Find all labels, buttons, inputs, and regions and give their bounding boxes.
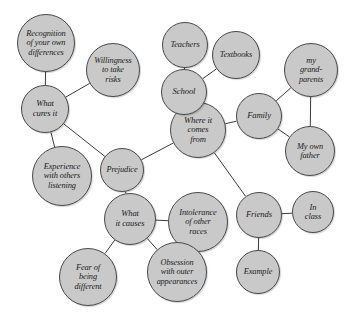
- node-recognition[interactable]: Recognition of your own differences: [17, 14, 75, 72]
- node-friends[interactable]: Friends: [236, 192, 282, 238]
- node-example[interactable]: Example: [236, 250, 280, 294]
- edge-where-from-to-friends: [214, 153, 245, 197]
- node-label-in-class: In class: [295, 203, 331, 222]
- edge-what-causes-to-obsession: [147, 238, 157, 249]
- edge-what-causes-to-intolerance: [156, 220, 168, 221]
- node-label-what-cures-it: What cures it: [24, 99, 66, 118]
- node-label-obsession: Obsession with outer appearances: [150, 258, 204, 286]
- node-teachers[interactable]: Teachers: [162, 22, 208, 68]
- node-label-friends: Friends: [239, 210, 279, 220]
- edge-what-causes-to-fear: [105, 240, 115, 253]
- node-label-recognition: Recognition of your own differences: [20, 29, 72, 57]
- node-what-causes[interactable]: What it causes: [104, 193, 156, 245]
- edge-willingness-to-what-cures-it: [66, 83, 90, 97]
- node-grandparents[interactable]: my grand- parents: [284, 43, 338, 97]
- node-label-prejudice: Prejudice: [103, 165, 141, 174]
- edge-school-to-textbooks: [203, 69, 217, 79]
- node-label-school: School: [164, 87, 204, 97]
- node-in-class[interactable]: In class: [292, 191, 334, 233]
- node-label-where-from: Where it comes from: [173, 116, 223, 145]
- edge-friends-to-in-class: [282, 213, 292, 214]
- node-label-own-father: My own father: [288, 142, 332, 161]
- mind-map-canvas: Recognition of your own differencesWilli…: [0, 0, 349, 322]
- node-willingness[interactable]: Willingness to take risks: [86, 43, 140, 97]
- node-label-textbooks: Textbooks: [215, 50, 257, 59]
- node-prejudice[interactable]: Prejudice: [100, 148, 144, 192]
- node-label-fear: Fear of being different: [62, 263, 114, 291]
- edge-where-from-to-family: [225, 121, 236, 124]
- node-obsession[interactable]: Obsession with outer appearances: [147, 242, 207, 302]
- node-school[interactable]: School: [161, 69, 207, 115]
- node-what-cures-it[interactable]: What cures it: [21, 85, 69, 133]
- node-family[interactable]: Family: [236, 93, 282, 139]
- node-experience[interactable]: Experience with others listening: [32, 146, 92, 206]
- node-textbooks[interactable]: Textbooks: [212, 31, 260, 79]
- node-own-father[interactable]: My own father: [285, 126, 335, 176]
- edge-family-to-grandparents: [276, 88, 291, 101]
- node-label-family: Family: [239, 111, 279, 121]
- edge-family-to-own-father: [278, 129, 289, 137]
- node-fear[interactable]: Fear of being different: [59, 248, 117, 306]
- edge-experience-to-what-cures-it: [51, 132, 55, 147]
- node-label-teachers: Teachers: [165, 40, 205, 49]
- node-label-intolerance: Intolerance of other races: [171, 208, 225, 236]
- node-label-willingness: Willingness to take risks: [89, 56, 137, 84]
- node-label-what-causes: What it causes: [107, 209, 153, 228]
- node-label-grandparents: my grand- parents: [287, 56, 335, 84]
- node-label-example: Example: [239, 267, 277, 276]
- edge-prejudice-to-where-from: [141, 143, 173, 160]
- node-label-experience: Experience with others listening: [35, 162, 89, 190]
